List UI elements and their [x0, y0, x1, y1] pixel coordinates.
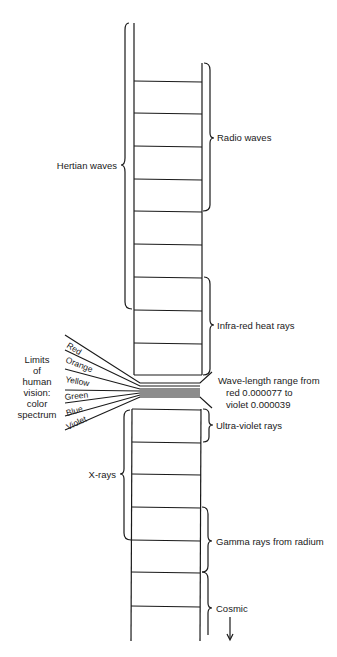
- ladder-right-rail-lower: [200, 409, 201, 641]
- svg-text:Limits: Limits: [25, 354, 50, 365]
- color-label-yellow: Yellow: [65, 374, 91, 388]
- spectrum-diagram: Radio waves Infra-red heat rays Wave-len…: [0, 0, 337, 657]
- vision-limits-label: Limits of human vision: color spectrum: [17, 354, 56, 420]
- svg-text:spectrum: spectrum: [17, 409, 56, 420]
- wavelength-label-line3: violet 0.000039: [226, 399, 290, 410]
- radio-waves-label: Radio waves: [217, 132, 272, 143]
- svg-text:color: color: [27, 398, 48, 409]
- wavelength-label-line1: Wave-length range from: [218, 375, 320, 386]
- infrared-bracket: [203, 277, 214, 375]
- svg-text:of: of: [33, 365, 41, 376]
- hertian-bracket: [121, 23, 132, 309]
- svg-text:human: human: [22, 376, 51, 387]
- wavelength-label-line2: red 0.000077 to: [226, 387, 293, 398]
- svg-text:vision:: vision:: [24, 387, 51, 398]
- lower-rungs: [131, 409, 201, 607]
- cosmic-bracket: [202, 572, 212, 635]
- infrared-label: Infra-red heat rays: [217, 320, 295, 331]
- xrays-bracket: [120, 410, 131, 540]
- ultraviolet-label: Ultra-violet rays: [216, 420, 282, 431]
- cosmic-label: Cosmic: [216, 603, 248, 614]
- down-arrow-icon: [227, 617, 233, 640]
- xrays-label: X-rays: [89, 469, 117, 480]
- radio-bracket: [203, 63, 214, 211]
- ultraviolet-bracket: [203, 409, 213, 442]
- upper-rungs: [134, 81, 202, 375]
- gamma-label: Gamma rays from radium: [216, 536, 324, 547]
- gamma-bracket: [202, 507, 212, 572]
- hertian-waves-label: Hertian waves: [57, 160, 117, 171]
- color-label-orange: Orange: [64, 355, 94, 375]
